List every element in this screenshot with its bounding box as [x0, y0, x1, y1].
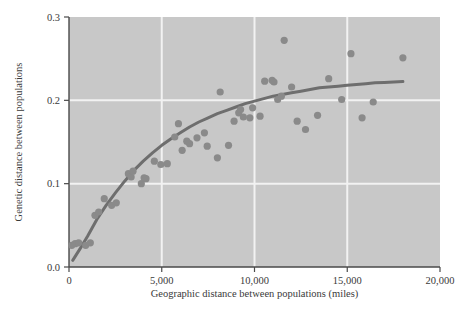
data-point	[225, 142, 232, 149]
data-point	[193, 134, 200, 141]
x-tick-label: 0	[66, 275, 71, 286]
data-point	[129, 168, 136, 175]
y-tick-label: 0.0	[47, 262, 60, 273]
data-point	[270, 78, 277, 85]
data-point	[87, 239, 94, 246]
data-point	[240, 113, 247, 120]
data-point	[179, 147, 186, 154]
data-point	[261, 78, 268, 85]
data-point	[358, 114, 365, 121]
data-point	[204, 143, 211, 150]
data-point	[75, 239, 82, 246]
x-tick-label: 10,000	[240, 275, 269, 286]
x-tick-label: 15,000	[333, 275, 362, 286]
figure-container: 05,00010,00015,00020,000 0.00.10.20.3 Ge…	[0, 0, 475, 316]
data-point	[314, 112, 321, 119]
data-point	[399, 54, 406, 61]
data-point	[186, 140, 193, 147]
data-point	[214, 154, 221, 161]
data-point	[249, 104, 256, 111]
data-point	[113, 199, 120, 206]
data-point	[302, 126, 309, 133]
data-point	[175, 120, 182, 127]
x-tick-label: 5,000	[150, 275, 174, 286]
data-point	[325, 75, 332, 82]
data-point	[164, 160, 171, 167]
data-point	[347, 50, 354, 57]
data-point	[171, 133, 178, 140]
y-tick-label: 0.2	[47, 95, 60, 106]
data-point	[338, 96, 345, 103]
data-point	[288, 83, 295, 90]
y-tick-label: 0.3	[47, 12, 60, 23]
y-axis-title: Genetic distance between populations	[13, 63, 24, 222]
data-point	[237, 106, 244, 113]
data-point	[246, 114, 253, 121]
x-axis-title: Geographic distance between populations …	[151, 288, 359, 300]
data-point	[95, 208, 102, 215]
data-point	[142, 175, 149, 182]
x-tick-label: 20,000	[426, 275, 455, 286]
data-point	[278, 93, 285, 100]
data-point	[370, 98, 377, 105]
data-point	[201, 129, 208, 136]
data-point	[256, 113, 263, 120]
data-point	[101, 195, 108, 202]
data-point	[217, 88, 224, 95]
scatter-chart: 05,00010,00015,00020,000 0.00.10.20.3 Ge…	[0, 0, 475, 316]
y-tick-label: 0.1	[47, 178, 60, 189]
data-point	[157, 161, 164, 168]
data-point	[294, 118, 301, 125]
data-point	[151, 158, 158, 165]
data-point	[230, 118, 237, 125]
data-point	[281, 37, 288, 44]
